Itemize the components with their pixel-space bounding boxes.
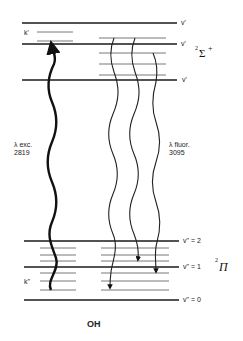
fluorescence-arrow-2 xyxy=(130,38,140,259)
svg-text:2: 2 xyxy=(215,257,218,263)
upper-rotational-label: k' xyxy=(24,29,29,36)
lower-level-label-v0: v" = 0 xyxy=(183,296,201,303)
svg-text:+: + xyxy=(208,44,213,53)
upper-state-levels xyxy=(22,23,177,80)
fluorescence-label: λ fluor. xyxy=(169,141,190,148)
upper-rotational-sublevels-left xyxy=(37,32,73,41)
upper-level-label-top: v' xyxy=(181,19,186,26)
excitation-arrow xyxy=(48,47,57,290)
fluorescence-arrow-3 xyxy=(152,53,160,271)
svg-text:Π: Π xyxy=(218,260,229,274)
lower-level-label-v2: v" = 2 xyxy=(183,237,201,244)
upper-level-label-mid: v' xyxy=(181,40,186,47)
svg-text:2: 2 xyxy=(195,45,198,51)
upper-level-label-low: v' xyxy=(182,76,187,83)
upper-term-symbol: 2 Σ + xyxy=(195,44,213,59)
fluorescence-wavelength: 3095 xyxy=(169,149,185,156)
excitation-label: λ exc. xyxy=(14,141,32,148)
lower-rotational-label: k" xyxy=(24,278,31,285)
excitation-wavelength: 2819 xyxy=(14,149,30,156)
energy-level-diagram: v' v' v' 2 Σ + k' k" v" = 2 v" = 1 v" = … xyxy=(0,0,243,341)
lower-rotational-sublevels-left xyxy=(40,248,76,290)
svg-text:Σ: Σ xyxy=(199,47,205,59)
molecule-label: OH xyxy=(87,319,101,329)
lower-level-label-v1: v" = 1 xyxy=(183,263,201,270)
lower-term-symbol: 2 Π xyxy=(215,257,229,274)
